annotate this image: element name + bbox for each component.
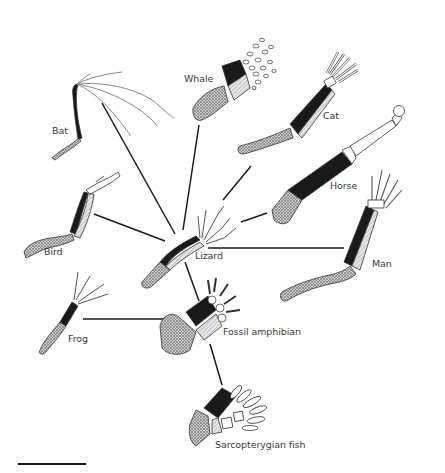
label-fossil-amphibian: Fossil amphibian [223,326,301,337]
label-horse: Horse [330,180,357,191]
label-bird: Bird [44,246,63,257]
connector-lizard-bat [102,103,175,234]
connector-lizard-horse [241,213,267,222]
connector-lizard-bird [94,214,165,241]
limb-fossil-amphibian [160,278,240,354]
limb-bat [52,72,174,160]
connector-lizard-cat [223,166,251,200]
label-bat: Bat [52,125,68,136]
limb-lizard [142,206,236,288]
scale-bar [18,463,86,465]
label-lizard: Lizard [195,250,223,261]
label-man: Man [372,258,392,269]
connector-lines [83,103,344,385]
limb-sarcopterygian-fish [189,384,267,446]
limb-cat [238,52,358,154]
label-frog: Frog [68,333,88,344]
connector-fossil-fish [210,344,222,385]
connector-lizard-fossil-amphibian [185,262,199,301]
label-sarcopterygian-fish: Sarcopterygian fish [215,439,305,450]
limb-bird [24,172,120,258]
label-whale: Whale [184,73,213,84]
connector-lizard-whale [183,125,199,230]
label-cat: Cat [323,110,339,121]
homologous-limbs-diagram [0,0,445,473]
